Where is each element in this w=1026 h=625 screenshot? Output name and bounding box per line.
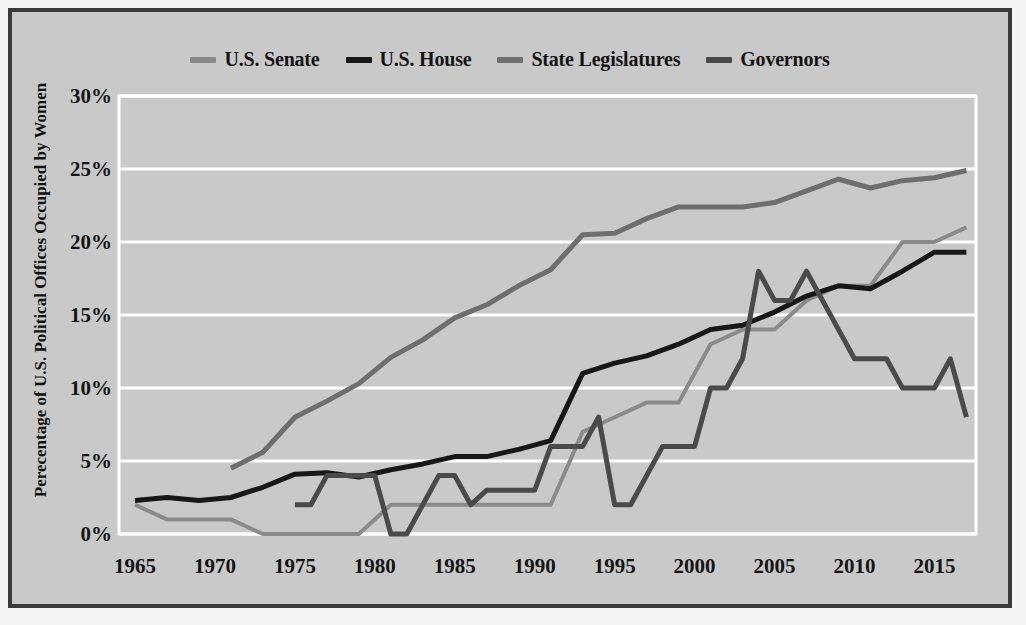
x-axis-tick-label: 2005 — [730, 554, 820, 579]
x-axis-tick-label: 2010 — [809, 554, 899, 579]
x-axis-tick-label: 1975 — [250, 554, 340, 579]
x-axis-tick-label: 1970 — [170, 554, 260, 579]
x-axis-tick-label: 1980 — [330, 554, 420, 579]
x-axis-tick-label: 1995 — [570, 554, 660, 579]
plot-area — [12, 12, 1008, 604]
x-axis-tick-label: 2000 — [650, 554, 740, 579]
x-axis-tick-label: 1990 — [490, 554, 580, 579]
chart-figure: U.S. SenateU.S. HouseState LegislaturesG… — [0, 0, 1026, 625]
x-axis-tick-label: 2015 — [889, 554, 979, 579]
x-axis-tick-label: 1965 — [90, 554, 180, 579]
x-axis-tick-label: 1985 — [410, 554, 500, 579]
x-axis-tick-labels: 1965197019751980198519901995200020052010… — [12, 554, 1008, 584]
chart-frame: U.S. SenateU.S. HouseState LegislaturesG… — [8, 8, 1012, 608]
